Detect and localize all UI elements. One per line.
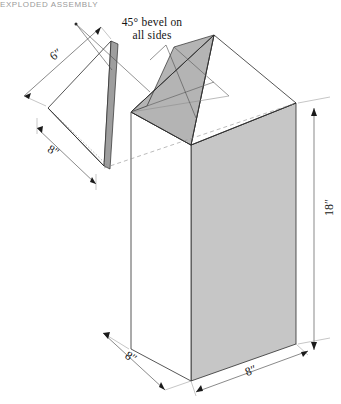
callout-leader-dot bbox=[75, 23, 78, 26]
dimension-18in bbox=[298, 97, 330, 350]
column-left-face bbox=[131, 112, 191, 381]
dimension-label-column-height: 18″ bbox=[322, 199, 337, 216]
drawing-page: EXPLODED ASSEMBLY bbox=[0, 0, 341, 404]
bevel-callout-line-1: 45° bevel on bbox=[104, 16, 200, 29]
callout-leader-to-cap bbox=[150, 45, 166, 60]
isometric-technical-drawing bbox=[0, 0, 341, 404]
column-right-face bbox=[191, 103, 296, 381]
bevel-callout: 45° bevel on all sides bbox=[104, 16, 200, 42]
bevel-callout-line-2: all sides bbox=[104, 29, 200, 42]
